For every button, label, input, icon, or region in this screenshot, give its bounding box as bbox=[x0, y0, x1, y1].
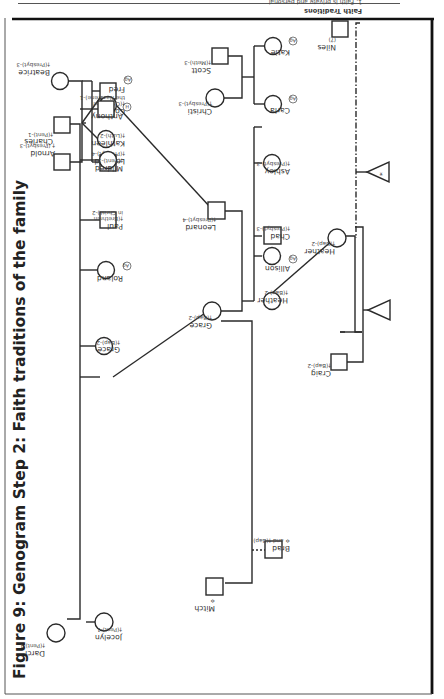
svg-text:Arnold: Arnold bbox=[30, 149, 55, 158]
person-craig[interactable]: Craig †(Bap)-2 bbox=[307, 354, 347, 378]
person-scott[interactable]: Scott †(Meth)-3 bbox=[184, 48, 228, 75]
svg-text:Heather: Heather bbox=[257, 296, 288, 305]
male-square-icon bbox=[331, 354, 347, 370]
person-leonard-gen2[interactable]: Leonard †(Presbyt)-4 bbox=[182, 202, 225, 232]
svg-text:(?): (?) bbox=[329, 37, 336, 43]
person-kathleen[interactable]: Kathleen †(Luth)-2 bbox=[91, 131, 125, 149]
rotated-figure: Figure 9: Genogram Step 2: Faith traditi… bbox=[0, 0, 444, 699]
female-circle-icon bbox=[52, 73, 69, 90]
person-mitch[interactable]: Mitch ✡ bbox=[194, 578, 223, 613]
svg-text:†(Bap)-2: †(Bap)-2 bbox=[96, 339, 120, 346]
craig-heather-union bbox=[345, 227, 368, 362]
svg-text:†(Presbyt)-3: †(Presbyt)-3 bbox=[16, 61, 50, 68]
svg-text:†(Bap)-2: †(Bap)-2 bbox=[307, 362, 331, 369]
svg-text:†(Bap)-2: †(Bap)-2 bbox=[311, 240, 335, 247]
svg-text:Carla: Carla bbox=[270, 106, 290, 115]
svg-text:H: H bbox=[125, 104, 129, 109]
svg-text:†(Presbyt)-3: †(Presbyt)-3 bbox=[178, 100, 212, 107]
person-jocelyn[interactable]: Jocelyn †(Pent)-1 bbox=[95, 613, 123, 642]
svg-text:†(Presbyt)-3: †(Presbyt)-3 bbox=[256, 160, 290, 167]
svg-text:†(Bap)-2: †(Bap)-2 bbox=[264, 289, 288, 296]
svg-text:Jocelyn: Jocelyn bbox=[95, 633, 123, 642]
svg-text:Roland: Roland bbox=[97, 274, 123, 283]
svg-text:✡ and †(Bap): ✡ and †(Bap) bbox=[253, 537, 290, 544]
svg-text:†(Pent)-1: †(Pent)-1 bbox=[97, 158, 123, 164]
male-square-icon bbox=[54, 154, 70, 170]
svg-text:Ag: Ag bbox=[290, 256, 296, 261]
svg-text:Darci: Darci bbox=[25, 649, 45, 658]
person-charles[interactable]: Charles †(Pent)-1 bbox=[24, 117, 70, 146]
person-paul[interactable]: Paul †(Brethren in Christ)-2 bbox=[92, 210, 123, 231]
svg-text:Mitch: Mitch bbox=[194, 604, 215, 613]
person-beatrice[interactable]: Beatrice †(Presbyt)-3 bbox=[16, 61, 69, 90]
pregnancy-craig-heather[interactable] bbox=[368, 300, 390, 320]
person-carla[interactable]: Carla Ag bbox=[265, 95, 298, 115]
person-heather-gen2[interactable]: Heather †(Bap)-2 bbox=[304, 229, 346, 256]
person-allison[interactable]: Allison Ag bbox=[264, 248, 298, 274]
male-square-icon bbox=[206, 578, 223, 595]
svg-text:Allison: Allison bbox=[265, 264, 290, 273]
svg-text:Anthony: Anthony bbox=[91, 112, 123, 121]
svg-text:Ag: Ag bbox=[290, 96, 296, 101]
svg-text:Fred: Fred bbox=[109, 85, 125, 94]
faith-traditions-legend: Faith Traditions 1. Faith is private and… bbox=[248, 0, 362, 15]
male-square-icon bbox=[208, 202, 225, 219]
svg-text:Ag: Ag bbox=[290, 38, 296, 43]
svg-text:†(Meth)-3: †(Meth)-3 bbox=[184, 60, 211, 66]
svg-text:†(Luth)-2: †(Luth)-2 bbox=[100, 133, 125, 139]
svg-text:Ag: Ag bbox=[125, 77, 131, 82]
male-square-icon bbox=[54, 117, 70, 133]
genogram-figure: Figure 9: Genogram Step 2: Faith traditi… bbox=[0, 0, 444, 699]
svg-text:Ag: Ag bbox=[123, 263, 129, 268]
svg-text:Kathleen: Kathleen bbox=[91, 139, 125, 148]
person-niles[interactable]: Niles (?) bbox=[317, 21, 348, 52]
svg-text:✡: ✡ bbox=[210, 598, 215, 604]
pregnancy-niles-heather[interactable]: * bbox=[367, 162, 389, 182]
svg-text:Leonard: Leonard bbox=[185, 223, 216, 232]
svg-text:in Christ)-2: in Christ)-2 bbox=[92, 210, 123, 216]
svg-text:†(Pent)-1: †(Pent)-1 bbox=[19, 643, 45, 649]
pregnancy-triangle-icon bbox=[368, 300, 390, 320]
svg-text:the Nazarene)-1: the Nazarene)-1 bbox=[79, 95, 125, 101]
person-christi[interactable]: Christi †(Presbyt)-3 bbox=[178, 89, 224, 116]
person-grace-gen2[interactable]: Grace †(Bap)-2 bbox=[188, 302, 221, 330]
svg-text:Ashley: Ashley bbox=[264, 167, 290, 176]
svg-text:Faith is private and personal: Faith is private and personal bbox=[268, 0, 354, 6]
person-roland[interactable]: Roland Ag bbox=[97, 262, 131, 284]
person-grace-gen1[interactable]: Grace †(Bap)-2 bbox=[96, 338, 121, 355]
person-katie[interactable]: Katie Ag bbox=[265, 37, 298, 57]
svg-text:Katie: Katie bbox=[270, 48, 290, 57]
svg-text:Niles: Niles bbox=[317, 43, 336, 52]
person-brad[interactable]: Brad ✡ and †(Bap) bbox=[253, 537, 290, 558]
person-heather-gen1[interactable]: Heather †(Bap)-2 bbox=[257, 289, 288, 310]
svg-text:†(Pent)-1: †(Pent)-1 bbox=[27, 132, 53, 138]
female-circle-icon bbox=[47, 624, 65, 642]
svg-text:Mildred: Mildred bbox=[95, 164, 123, 173]
svg-text:†(Presbyt)-4: †(Presbyt)-4 bbox=[182, 216, 216, 223]
svg-text:Paul: Paul bbox=[107, 222, 123, 231]
person-chad[interactable]: Chad †(Presbyt)-3 bbox=[256, 225, 290, 244]
male-square-icon bbox=[212, 48, 228, 64]
svg-text:Craig: Craig bbox=[311, 369, 331, 378]
svg-text:Brad: Brad bbox=[272, 544, 290, 553]
svg-text:Chad: Chad bbox=[270, 232, 290, 241]
svg-text:Beatrice: Beatrice bbox=[18, 68, 50, 77]
female-circle-icon bbox=[264, 248, 281, 265]
svg-text:Scott: Scott bbox=[191, 66, 211, 75]
svg-text:Faith Traditions: Faith Traditions bbox=[304, 7, 362, 15]
svg-text:Christi: Christi bbox=[188, 107, 212, 116]
person-ashley[interactable]: Ashley †(Presbyt)-3 bbox=[256, 155, 290, 177]
svg-text:†(Presbyt)-3: †(Presbyt)-3 bbox=[256, 225, 290, 232]
male-square-icon bbox=[332, 21, 348, 37]
svg-text:1.: 1. bbox=[356, 0, 362, 6]
asterisk-icon: * bbox=[378, 172, 387, 176]
svg-text:†(Pent)-1: †(Pent)-1 bbox=[96, 627, 122, 633]
svg-text:Heather: Heather bbox=[304, 247, 335, 256]
svg-text:Grace: Grace bbox=[189, 321, 212, 330]
figure-title: Figure 9: Genogram Step 2: Faith traditi… bbox=[11, 180, 29, 679]
svg-text:†(Bap)-2: †(Bap)-2 bbox=[188, 314, 212, 321]
